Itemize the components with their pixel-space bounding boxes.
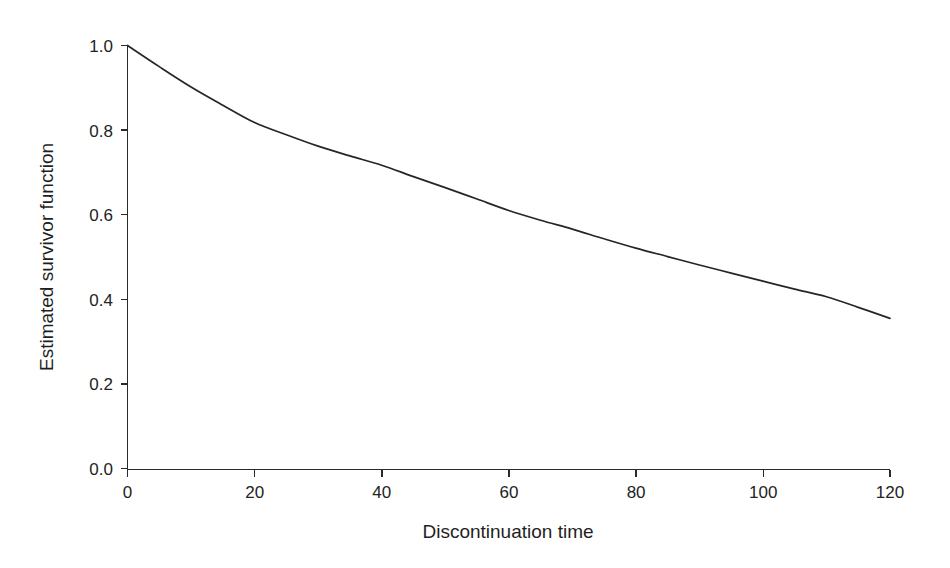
- y-tick-marks: [121, 46, 127, 469]
- y-tick-label-3: 0.6: [89, 206, 113, 225]
- plot-area: 0.0 0.2 0.4 0.6 0.8 1.0 0 20 40 60 80 10…: [0, 0, 950, 568]
- y-axis-title: Estimated survivor function: [36, 143, 57, 371]
- survival-chart-figure: 0.0 0.2 0.4 0.6 0.8 1.0 0 20 40 60 80 10…: [0, 0, 950, 568]
- x-axis-title: Discontinuation time: [422, 521, 593, 542]
- y-tick-label-1: 0.2: [89, 375, 113, 394]
- x-tick-label-6: 120: [876, 483, 904, 502]
- survivor-function-curve: [128, 46, 891, 319]
- x-tick-label-1: 20: [245, 483, 264, 502]
- x-tick-label-0: 0: [123, 483, 132, 502]
- x-tick-label-5: 100: [749, 483, 777, 502]
- x-tick-marks: [128, 470, 891, 477]
- y-tick-label-2: 0.4: [89, 291, 113, 310]
- x-tick-label-3: 60: [499, 483, 518, 502]
- y-tick-label-4: 0.8: [89, 122, 113, 141]
- x-tick-label-2: 40: [372, 483, 391, 502]
- x-tick-label-4: 80: [627, 483, 646, 502]
- y-tick-label-0: 0.0: [89, 460, 113, 479]
- y-tick-label-5: 1.0: [89, 37, 113, 56]
